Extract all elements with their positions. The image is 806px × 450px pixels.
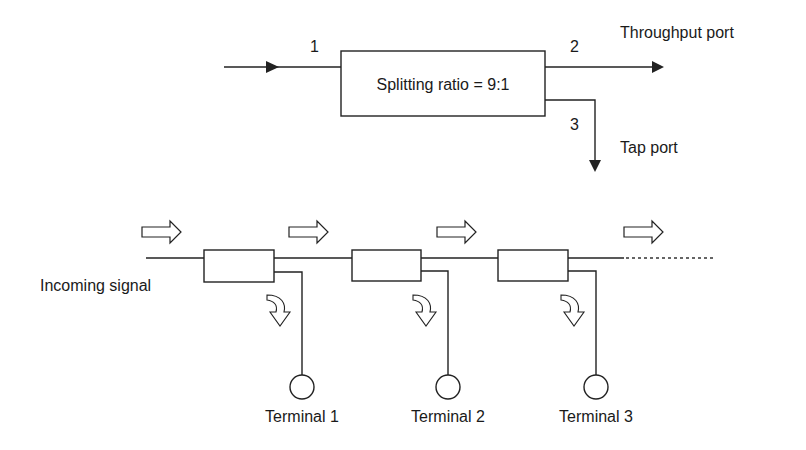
terminal-node-icon	[436, 375, 460, 399]
tap-flow-arrow-icon	[267, 295, 290, 326]
port-3-label: 3	[570, 116, 579, 133]
throughput-port-label: Throughput port	[620, 24, 734, 41]
throughput-arrow-icon	[652, 61, 664, 73]
terminal-label: Terminal 1	[265, 408, 339, 425]
flow-arrow-icon	[289, 221, 328, 243]
splitting-ratio-label: Splitting ratio = 9:1	[377, 76, 510, 93]
tap-port-label: Tap port	[620, 139, 678, 156]
port-2-label: 2	[570, 38, 579, 55]
coupler-detail: 1 Splitting ratio = 9:1 2 Throughput por…	[224, 24, 734, 172]
terminal-node-icon	[290, 375, 314, 399]
tap-coupler-diagram: 1 Splitting ratio = 9:1 2 Throughput por…	[0, 0, 806, 450]
coupler-2: Terminal 2	[352, 250, 485, 425]
coupler-1: Terminal 1	[204, 250, 339, 425]
flow-arrow-icon	[437, 221, 476, 243]
terminal-label: Terminal 2	[411, 408, 485, 425]
incoming-signal-label: Incoming signal	[40, 277, 151, 294]
coupler-box	[498, 250, 568, 281]
input-arrow-icon	[266, 61, 279, 73]
tap-flow-arrow-icon	[413, 295, 436, 326]
port-1-label: 1	[310, 38, 319, 55]
flow-arrow-icon	[624, 221, 663, 243]
terminal-node-icon	[584, 375, 608, 399]
coupler-3: Terminal 3	[498, 250, 633, 425]
coupler-box	[352, 250, 421, 281]
bus-network: Incoming signal Terminal 1 Terminal 2	[40, 221, 716, 425]
coupler-box	[204, 250, 274, 282]
terminal-label: Terminal 3	[559, 408, 633, 425]
flow-arrow-icon	[142, 221, 181, 243]
tap-arrow-icon	[589, 160, 601, 172]
tap-flow-arrow-icon	[561, 295, 584, 326]
